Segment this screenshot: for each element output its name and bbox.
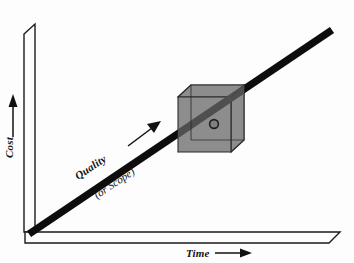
x-axis-label: Time [186, 247, 210, 259]
diagram-canvas: Cost [0, 0, 354, 263]
cube-center-dot-icon [210, 120, 219, 129]
quality-label: Quality [72, 152, 108, 181]
time-axis-arrow-icon [215, 249, 252, 258]
y-axis-slab [24, 24, 35, 232]
x-axis-slab [25, 232, 340, 243]
quality-arrow-icon [128, 121, 161, 146]
cost-axis-arrow-icon [9, 94, 18, 137]
diagram-svg: Cost [0, 0, 354, 263]
y-axis-label: Cost [3, 136, 15, 158]
